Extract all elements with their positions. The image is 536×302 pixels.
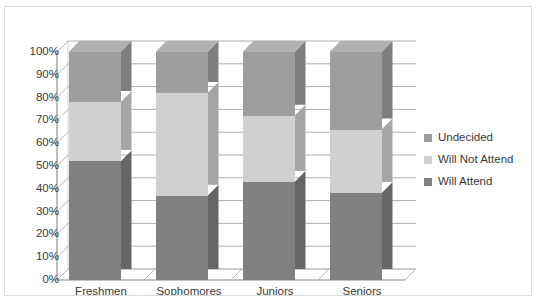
legend-item-will-not-attend[interactable]: Will Not Attend — [424, 149, 530, 171]
legend-item-undecided[interactable]: Undecided — [424, 127, 530, 149]
legend-swatch-icon — [424, 134, 432, 142]
legend-item-will-attend[interactable]: Will Attend — [424, 171, 530, 193]
chart-legend: Undecided Will Not Attend Will Attend — [424, 127, 530, 193]
legend-label: Will Not Attend — [438, 154, 513, 166]
x-tick-label-juniors: Juniors — [256, 285, 293, 296]
legend-label: Will Attend — [438, 176, 492, 188]
legend-swatch-icon — [424, 156, 432, 164]
x-tick-label-freshmen: Freshmen — [75, 285, 127, 296]
legend-swatch-icon — [424, 178, 432, 186]
x-tick-label-seniors: Seniors — [343, 285, 382, 296]
chart-container: 100% 90% 80% 70% 60% 50% 40% 30% 20% 10%… — [4, 6, 532, 296]
legend-label: Undecided — [438, 132, 493, 144]
x-tick-label-sophomores: Sophomores — [156, 285, 221, 296]
